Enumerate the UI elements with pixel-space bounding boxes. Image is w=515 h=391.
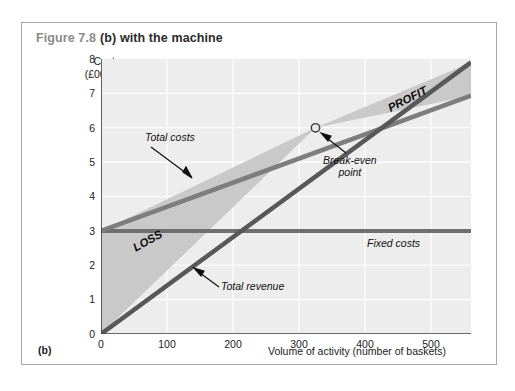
y-tick-label-8: 8: [81, 53, 95, 65]
label-fixed-costs: Fixed costs: [367, 237, 420, 249]
figure-caption: Figure 7.8(b) with the machine: [36, 31, 223, 45]
x-axis-title: Volume of activity (number of baskets): [268, 345, 446, 357]
x-tick-label-100: 100: [153, 338, 181, 350]
y-tick-label-2: 2: [81, 259, 95, 271]
y-tick-label-3: 3: [81, 225, 95, 237]
figure-caption-text: (b) with the machine: [100, 31, 223, 45]
break-even-line1: Break-even: [323, 154, 377, 166]
figure-number: Figure 7.8: [36, 31, 96, 45]
y-tick-label-4: 4: [81, 190, 95, 202]
y-tick-label-5: 5: [81, 156, 95, 168]
label-break-even-point: Break-even point: [323, 154, 377, 178]
plot-area: Total costs Total revenue Fixed costs LO…: [101, 59, 471, 334]
label-total-revenue: Total revenue: [221, 280, 284, 292]
figure-panel: Figure 7.8(b) with the machine (b) Cost …: [21, 22, 497, 365]
x-tick-label-200: 200: [219, 338, 247, 350]
break-even-marker: [311, 124, 319, 132]
y-tick-label-1: 1: [81, 293, 95, 305]
x-tick-label-0: 0: [87, 338, 115, 350]
y-tick-label-7: 7: [81, 87, 95, 99]
label-total-costs: Total costs: [145, 131, 195, 143]
y-tick-label-6: 6: [81, 122, 95, 134]
panel-label: (b): [38, 344, 51, 356]
break-even-line2: point: [323, 166, 377, 178]
